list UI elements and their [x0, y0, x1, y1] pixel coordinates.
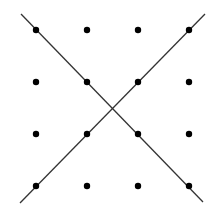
- grid-dot: [186, 183, 192, 189]
- grid-dot: [84, 183, 90, 189]
- grid-dot: [135, 131, 141, 137]
- grid-dot: [186, 27, 192, 33]
- grid-dot: [84, 79, 90, 85]
- grid-dot: [33, 131, 39, 137]
- grid-dot: [135, 27, 141, 33]
- grid-dot: [33, 27, 39, 33]
- grid-dot: [186, 79, 192, 85]
- grid-dot: [84, 131, 90, 137]
- grid-dot: [186, 131, 192, 137]
- grid-dot: [33, 183, 39, 189]
- grid-dot: [135, 183, 141, 189]
- grid-dot: [33, 79, 39, 85]
- crossing-lines: [20, 14, 205, 203]
- grid-dot: [135, 79, 141, 85]
- grid-dot: [84, 27, 90, 33]
- dot-grid-diagram: [0, 0, 219, 218]
